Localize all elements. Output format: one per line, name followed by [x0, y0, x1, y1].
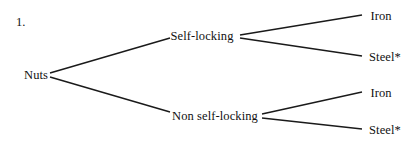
edge-self-locking-to-iron [240, 15, 362, 35]
tree-node-nuts: Nuts [24, 69, 48, 82]
edge-root-to-non-self-locking [50, 77, 170, 112]
tree-node-non-self-locking: Non self-locking [172, 110, 258, 123]
edge-non-self-locking-to-steel [262, 118, 362, 129]
tree-leaf-non-self-locking-steel: Steel* [369, 124, 401, 137]
tree-edges [0, 0, 419, 150]
tree-node-self-locking: Self-locking [171, 30, 234, 43]
tree-leaf-self-locking-iron: Iron [370, 10, 391, 23]
edge-root-to-self-locking [50, 38, 170, 73]
tree-leaf-self-locking-steel: Steel* [369, 51, 401, 64]
item-number: 1. [16, 16, 25, 29]
tree-leaf-non-self-locking-iron: Iron [370, 87, 391, 100]
edge-non-self-locking-to-iron [262, 92, 362, 114]
edge-self-locking-to-steel [240, 38, 362, 56]
classification-tree-figure: 1. Nuts Self-locking Non self-locking Ir… [0, 0, 419, 150]
